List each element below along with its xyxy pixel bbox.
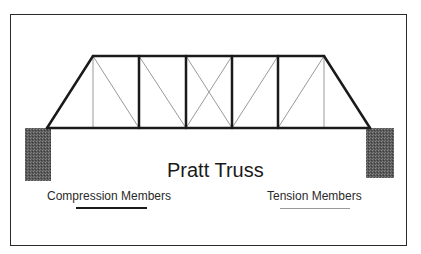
diagonal-1 — [93, 56, 139, 128]
diagonal-5 — [278, 56, 324, 128]
tension-members — [93, 56, 324, 128]
diagonal-4 — [232, 56, 278, 128]
diagram-title: Pratt Truss — [167, 160, 264, 180]
legend-compression-label: Compression Members — [47, 190, 171, 202]
right-support — [366, 128, 394, 178]
legend-tension-swatch — [280, 208, 350, 209]
legend-compression-swatch — [76, 207, 147, 209]
pratt-truss-diagram: Pratt Truss Compression Members Tension … — [0, 0, 421, 254]
truss-drawing — [0, 0, 421, 254]
left-end-post — [47, 56, 93, 128]
legend-tension-label: Tension Members — [267, 190, 362, 202]
right-end-post — [324, 56, 370, 128]
left-support — [25, 128, 51, 181]
diagonal-2 — [139, 56, 186, 128]
